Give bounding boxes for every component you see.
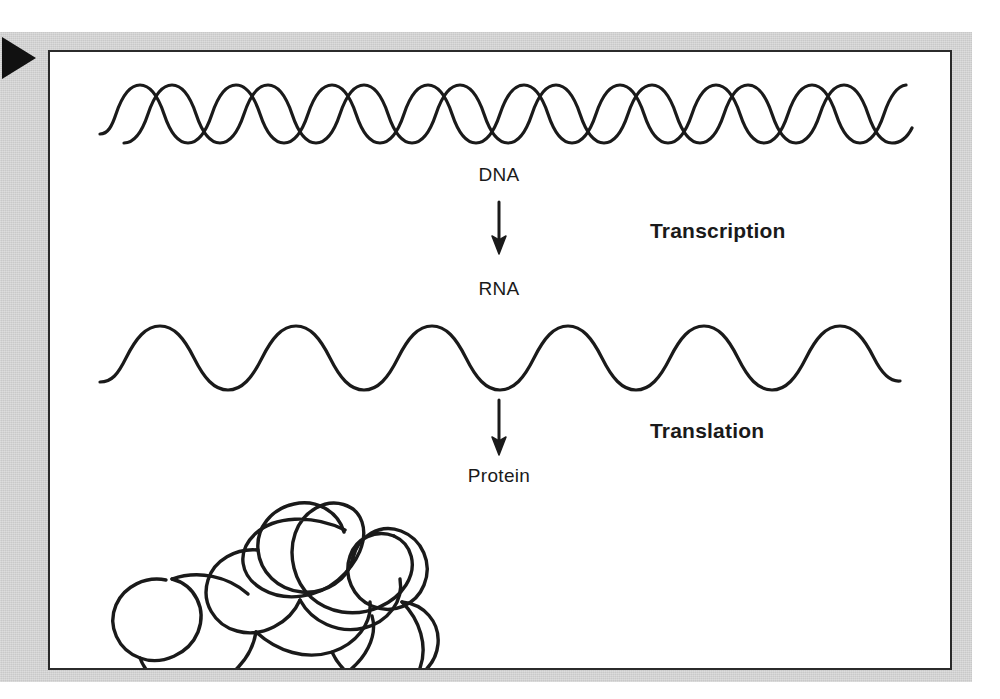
protein-chain bbox=[113, 503, 438, 670]
label-transcription: Transcription bbox=[650, 219, 786, 243]
figure-page: DNA RNA Protein Transcription Translatio… bbox=[0, 0, 1000, 699]
label-protein: Protein bbox=[468, 465, 530, 487]
figure-panel: DNA RNA Protein Transcription Translatio… bbox=[48, 50, 952, 670]
dna-strand-b bbox=[124, 85, 912, 143]
figure-artwork bbox=[50, 52, 952, 670]
rna-strand bbox=[100, 326, 900, 390]
label-rna: RNA bbox=[478, 278, 519, 300]
label-dna: DNA bbox=[478, 164, 519, 186]
dna-strand-a bbox=[100, 85, 906, 143]
arrow-dna-to-rna bbox=[492, 202, 506, 254]
label-translation: Translation bbox=[650, 419, 764, 443]
right-pointing-triangle-icon bbox=[2, 37, 36, 79]
arrow-rna-to-protein bbox=[492, 400, 506, 455]
